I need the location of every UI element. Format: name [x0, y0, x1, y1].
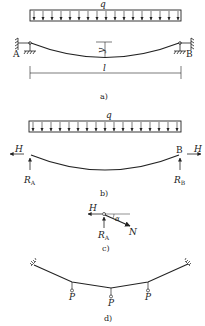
panel-c: H α N RA c) [88, 203, 138, 253]
panel-b: q [10, 110, 202, 198]
panel-a: q [12, 0, 194, 101]
span-label-l: l [103, 63, 106, 73]
point-load-label: P [68, 292, 76, 302]
angle-alpha-label: α [115, 215, 120, 223]
force-h-left-label: H [14, 144, 23, 154]
caption-d: d) [104, 314, 112, 323]
point-load-label: P [144, 292, 152, 302]
cable-structure-diagram: q [0, 0, 205, 326]
reaction-a-label: RA [23, 175, 36, 186]
support-label-b: B [186, 49, 193, 59]
support-label-a: A [12, 49, 20, 59]
point-load [71, 282, 150, 298]
caption-a: a) [100, 92, 108, 101]
distributed-load [30, 10, 181, 21]
sag-label-y: y [96, 47, 106, 54]
distributed-load [29, 121, 181, 132]
caption-c: c) [102, 244, 110, 253]
caption-b: b) [100, 189, 108, 198]
cable-polygon [34, 264, 188, 288]
point-load-label: P [107, 298, 115, 308]
reaction-a-label: RA [97, 230, 110, 241]
angle-arc [113, 214, 114, 218]
tension-n-label: N [128, 227, 138, 237]
force-h-label: H [88, 203, 97, 213]
panel-d: P P P d) [30, 258, 191, 323]
support-label-b: B [176, 145, 183, 155]
cable-curve [31, 155, 179, 170]
load-label-q: q [100, 0, 106, 9]
reaction-b-label: RB [173, 175, 186, 186]
force-h-right-label: H [193, 144, 202, 154]
load-label-q: q [106, 110, 112, 120]
anchor-left [30, 258, 36, 266]
